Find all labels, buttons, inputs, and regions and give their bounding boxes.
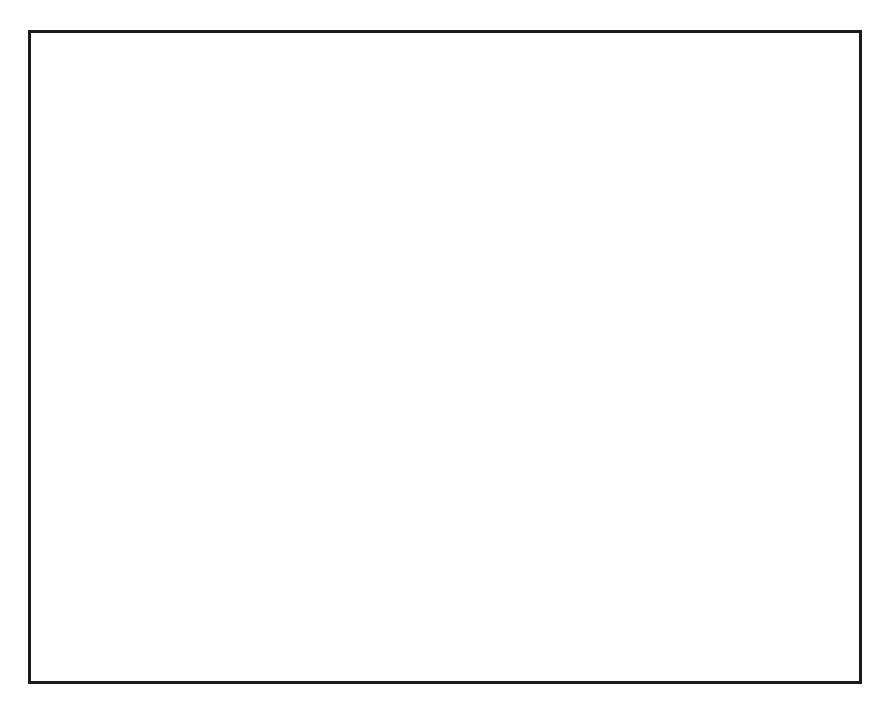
scatter-plot-atlantic-pacific <box>37 333 449 618</box>
panel-pacific-typhoons <box>449 333 861 683</box>
scatter-plot-indian-ocean <box>37 37 449 297</box>
chart-atlantic-pacific <box>37 333 449 618</box>
chart-pacific-typhoons <box>449 333 861 618</box>
chart-southern-hemisphere <box>449 37 861 297</box>
panel-southern-hemisphere <box>449 37 861 349</box>
scatter-plot-southern-hemisphere <box>449 37 861 297</box>
figure-frame <box>28 30 862 684</box>
panel-atlantic-pacific <box>37 333 449 683</box>
page-root <box>0 0 890 714</box>
scatter-plot-pacific-typhoons <box>449 333 861 618</box>
panel-indian-ocean <box>37 37 449 349</box>
chart-indian-ocean <box>37 37 449 297</box>
figure-panel-grid <box>31 33 859 681</box>
